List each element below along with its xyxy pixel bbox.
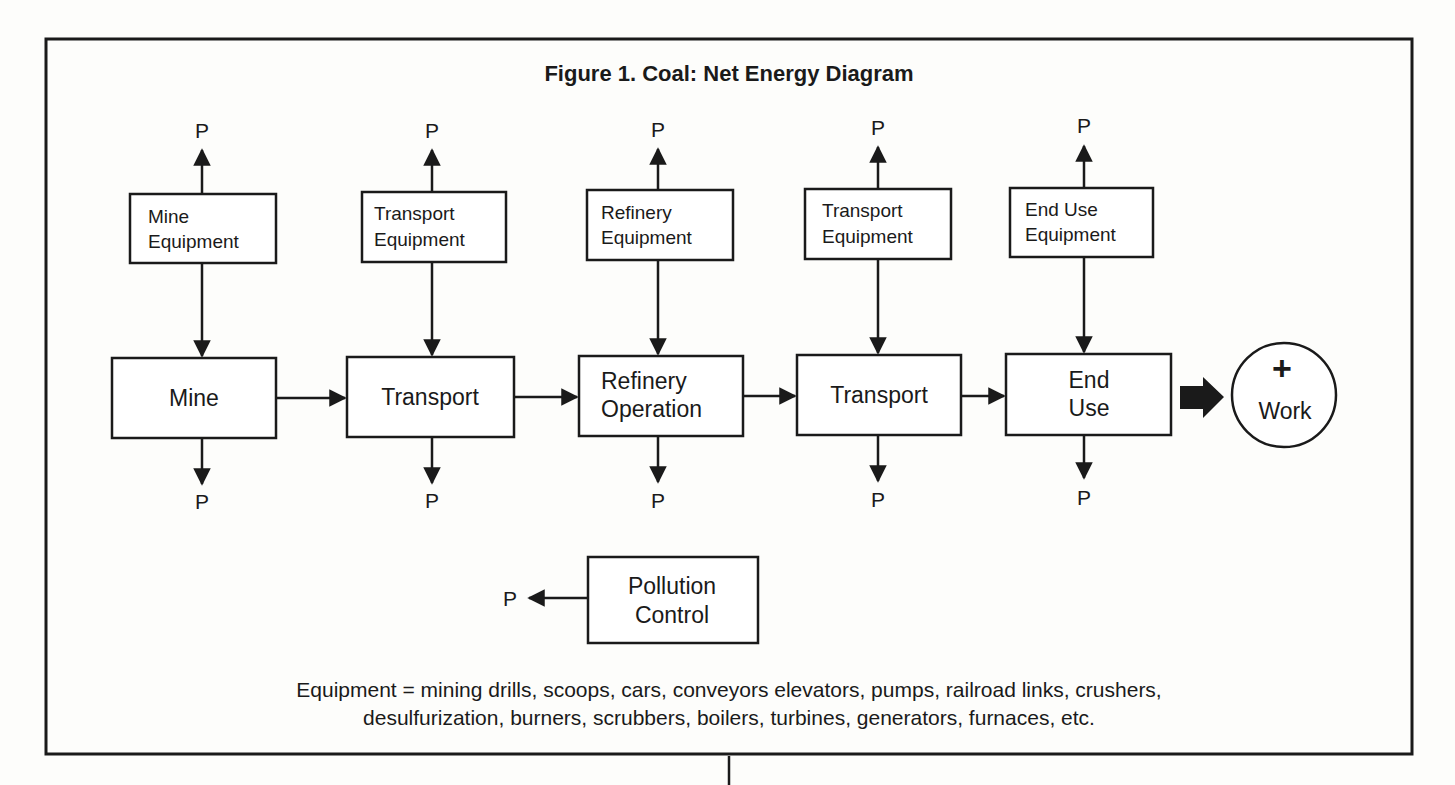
process-box-label: Use	[1069, 395, 1110, 421]
process-box-label: Transport	[830, 382, 928, 408]
equipment-box-label: Transport	[822, 200, 903, 221]
pollution-control-box[interactable]	[588, 557, 758, 643]
product-label-left: P	[503, 587, 517, 610]
equipment-box-refinery[interactable]	[587, 190, 733, 260]
process-box-label: Mine	[169, 385, 219, 411]
column-transport-1: P Transport Equipment Transport P	[347, 119, 514, 512]
equipment-box-label: Mine	[148, 206, 189, 227]
column-mine: P Mine Equipment Mine P	[112, 119, 276, 513]
equipment-box-mine[interactable]	[130, 194, 276, 263]
equipment-box-label: Equipment	[601, 227, 693, 248]
pollution-control-label: Pollution	[628, 573, 716, 599]
equipment-box-label: Equipment	[1025, 224, 1117, 245]
equipment-box-label: Equipment	[822, 226, 914, 247]
process-box-label: Transport	[381, 384, 479, 410]
product-label-top: P	[425, 119, 439, 142]
equipment-box-label: Equipment	[148, 231, 240, 252]
product-label-bottom: P	[871, 488, 885, 511]
pollution-control-label: Control	[635, 602, 709, 628]
document-page: Figure 1. Coal: Net Energy Diagram P Min…	[0, 0, 1455, 785]
process-box-label: Refinery	[601, 368, 687, 394]
equipment-box-label: Transport	[374, 203, 455, 224]
column-transport-2: P Transport Equipment Transport P	[797, 116, 961, 511]
product-label-top: P	[871, 116, 885, 139]
product-label-bottom: P	[195, 490, 209, 513]
product-label-top: P	[195, 119, 209, 142]
equipment-box-label: Refinery	[601, 202, 672, 223]
process-box-label: Operation	[601, 396, 702, 422]
product-label-bottom: P	[1077, 486, 1091, 509]
equipment-box-label: End Use	[1025, 199, 1098, 220]
product-label-top: P	[1077, 114, 1091, 137]
process-box-label: End	[1069, 367, 1110, 393]
net-energy-diagram: Figure 1. Coal: Net Energy Diagram P Min…	[0, 0, 1455, 785]
thick-arrow-right-icon	[1180, 377, 1224, 418]
column-refinery: P Refinery Equipment Refinery Operation …	[579, 118, 743, 512]
product-label-bottom: P	[651, 489, 665, 512]
equipment-box-label: Equipment	[374, 229, 466, 250]
product-label-bottom: P	[425, 489, 439, 512]
product-label-top: P	[651, 118, 665, 141]
caption-line-1: Equipment = mining drills, scoops, cars,…	[296, 678, 1161, 701]
plus-icon: +	[1272, 349, 1292, 387]
caption-line-2: desulfurization, burners, scrubbers, boi…	[363, 706, 1095, 729]
pollution-control: Pollution Control P	[503, 557, 758, 643]
work-output: + Work	[1232, 343, 1336, 447]
column-end-use: P End Use Equipment End Use P	[1006, 114, 1171, 509]
figure-title: Figure 1. Coal: Net Energy Diagram	[544, 61, 913, 86]
work-label: Work	[1258, 398, 1312, 424]
